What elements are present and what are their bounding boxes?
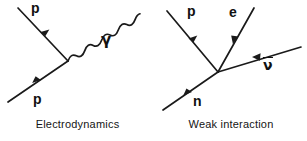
label-antineutrino: ν [263, 57, 273, 72]
feynman-diagram-figure: p p γ Electrodynamics [0, 0, 307, 141]
arrowhead-outgoing-proton [189, 36, 198, 43]
line-incoming-neutron [163, 72, 218, 110]
caption-weak-interaction: Weak interaction [155, 118, 307, 130]
label-photon: γ [101, 33, 111, 48]
label-outgoing-proton: p [187, 4, 196, 18]
label-outgoing-proton: p [31, 1, 40, 15]
label-incoming-proton: p [33, 92, 42, 106]
label-outgoing-electron: e [229, 5, 237, 19]
label-incoming-neutron: n [193, 94, 202, 108]
label-antineutrino-text: ν [263, 57, 273, 72]
panel-electrodynamics: p p γ Electrodynamics [0, 0, 155, 141]
panel-weak-interaction: p e n ν Weak interaction [155, 0, 307, 141]
line-outgoing-proton [18, 8, 68, 61]
arrowhead-incoming-neutron [183, 88, 192, 95]
arrowhead-outgoing-proton [41, 30, 50, 37]
caption-electrodynamics: Electrodynamics [0, 118, 155, 130]
